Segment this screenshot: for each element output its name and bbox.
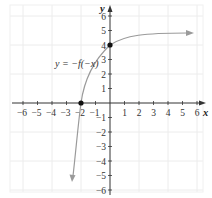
x-axis — [12, 101, 206, 106]
x-tick-label: 2 — [137, 108, 142, 118]
x-tick-labels: −6 −5 −4 −3 −2 −1 1 2 3 4 5 6 — [17, 108, 200, 118]
curve-label: y = −f(−x) — [54, 58, 99, 70]
x-tick-label: 1 — [122, 108, 127, 118]
y-tick-label: 5 — [101, 26, 106, 36]
x-tick-label: 3 — [151, 108, 156, 118]
y-axis-arrow-icon — [108, 5, 113, 12]
curve-arrow-down-icon — [70, 175, 76, 183]
x-tick-label: 4 — [166, 108, 171, 118]
curve-arrow-right-icon — [186, 30, 194, 36]
y-tick-label: 1 — [101, 84, 106, 94]
x-tick-label: 6 — [195, 108, 200, 118]
y-axis — [108, 5, 113, 195]
x-tick-label: 5 — [180, 108, 185, 118]
x-tick-label: −3 — [60, 108, 70, 118]
y-axis-label: y — [98, 3, 105, 14]
y-tick-label: 3 — [101, 55, 106, 65]
y-tick-label: −6 — [96, 186, 106, 196]
curve — [70, 30, 195, 182]
y-tick-label: −1 — [96, 113, 106, 123]
y-tick-label: 2 — [101, 70, 106, 80]
y-tick-label: −2 — [96, 128, 106, 138]
graph: −6 −5 −4 −3 −2 −1 1 2 3 4 5 6 6 5 4 3 2 … — [0, 0, 212, 198]
x-tick-label: −5 — [31, 108, 41, 118]
point-neg2-0 — [78, 100, 83, 105]
y-tick-label: −4 — [96, 157, 106, 167]
point-0-4 — [107, 42, 112, 47]
x-axis-label: x — [202, 107, 208, 118]
y-tick-label: −5 — [96, 171, 106, 181]
x-tick-label: −6 — [17, 108, 27, 118]
y-tick-label: −3 — [96, 142, 106, 152]
x-tick-label: −4 — [46, 108, 56, 118]
